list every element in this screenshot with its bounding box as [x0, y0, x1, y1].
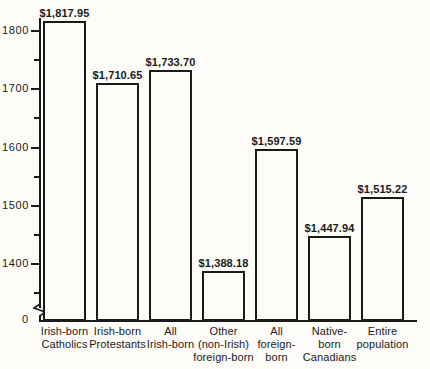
y-tick-label: 1400 [2, 257, 28, 269]
bar-value-label: $1,597.59 [237, 135, 316, 147]
y-tick-label: 1500 [2, 199, 28, 211]
y-tick-major [31, 147, 40, 149]
bar [308, 236, 351, 321]
y-tick-minor [34, 292, 40, 294]
bar-value-label: $1,447.94 [290, 222, 369, 234]
bar [149, 70, 192, 321]
bar [202, 271, 245, 321]
y-tick-label: 1600 [2, 141, 28, 153]
y-tick-label: 1700 [2, 82, 28, 94]
y-tick-minor [34, 176, 40, 178]
bar [96, 83, 139, 321]
bar-value-label: $1,388.18 [184, 257, 263, 269]
y-tick-major [31, 88, 40, 90]
bar [361, 197, 404, 321]
bar-chart: 14001500160017001800 0 $1,817.95$1,710.6… [0, 0, 430, 369]
bar [43, 21, 86, 321]
y-tick-label: 1800 [2, 24, 28, 36]
y-tick-major [31, 30, 40, 32]
y-tick-minor [34, 117, 40, 119]
bar [255, 149, 298, 321]
y-tick-minor [34, 59, 40, 61]
y-axis-zero-label: 0 [22, 313, 28, 325]
bar-value-label: $1,733.70 [131, 56, 210, 68]
y-tick-minor [34, 234, 40, 236]
bar-value-label: $1,817.95 [25, 7, 104, 19]
bar-value-label: $1,515.22 [343, 183, 422, 195]
y-tick-major [31, 263, 40, 265]
y-tick-major [31, 205, 40, 207]
x-category-label: Entire population [349, 325, 416, 351]
bar-value-label: $1,710.65 [78, 69, 157, 81]
